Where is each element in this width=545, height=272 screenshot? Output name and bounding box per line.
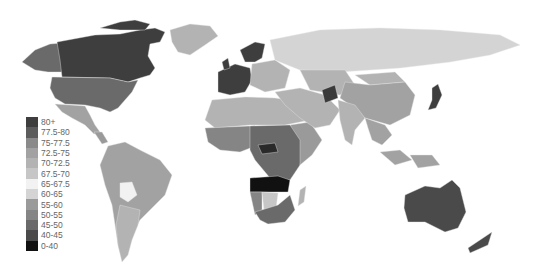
canada <box>57 28 165 82</box>
legend-label: 72.5-75 <box>41 148 70 158</box>
eastern-europe <box>250 60 290 92</box>
legend-swatch <box>26 189 38 199</box>
legend-swatch <box>26 199 38 209</box>
scandinavia <box>240 42 265 62</box>
legend-item: 67.5-70 <box>26 168 86 178</box>
legend-label: 77.5-80 <box>41 127 70 137</box>
legend-swatch <box>26 117 38 127</box>
australia <box>404 180 466 232</box>
legend-item: 65-67.5 <box>26 179 86 189</box>
legend-swatch <box>26 179 38 189</box>
legend-label: 40-45 <box>41 230 63 240</box>
legend-swatch <box>26 210 38 220</box>
madagascar <box>298 186 306 206</box>
legend-label: 45-50 <box>41 220 63 230</box>
legend-swatch <box>26 241 38 251</box>
legend-label: 55-60 <box>41 200 63 210</box>
western-europe <box>218 64 252 95</box>
legend-swatch <box>26 158 38 168</box>
legend-item: 72.5-75 <box>26 148 86 158</box>
legend-label: 80+ <box>41 117 55 127</box>
central-america <box>94 132 108 144</box>
legend-swatch <box>26 127 38 137</box>
legend-item: 70-72.5 <box>26 158 86 168</box>
legend-swatch <box>26 230 38 240</box>
legend-item: 0-40 <box>26 241 86 251</box>
angola-zambia <box>250 176 290 192</box>
alaska <box>22 43 62 72</box>
legend-label: 67.5-70 <box>41 169 70 179</box>
legend-swatch <box>26 138 38 148</box>
legend-label: 50-55 <box>41 210 63 220</box>
legend-item: 40-45 <box>26 230 86 240</box>
legend-label: 0-40 <box>41 241 58 251</box>
legend-item: 60-65 <box>26 189 86 199</box>
legend-item: 80+ <box>26 117 86 127</box>
legend-swatch <box>26 148 38 158</box>
legend-label: 70-72.5 <box>41 158 70 168</box>
legend-swatch <box>26 168 38 178</box>
new-zealand <box>468 232 492 253</box>
legend-item: 75-77.5 <box>26 138 86 148</box>
legend-item: 45-50 <box>26 220 86 230</box>
south-america <box>100 142 172 260</box>
legend-label: 60-65 <box>41 189 63 199</box>
indonesia <box>380 150 440 168</box>
legend-item: 50-55 <box>26 210 86 220</box>
legend-swatch <box>26 220 38 230</box>
legend: 80+77.5-8075-77.572.5-7570-72.567.5-7065… <box>26 117 86 251</box>
argentina <box>116 205 140 262</box>
uk <box>222 58 230 70</box>
canada-islands <box>100 20 150 30</box>
legend-item: 77.5-80 <box>26 127 86 137</box>
greenland <box>170 24 218 55</box>
japan <box>428 84 442 110</box>
legend-label: 75-77.5 <box>41 138 70 148</box>
russia <box>270 28 520 72</box>
legend-label: 65-67.5 <box>41 179 70 189</box>
legend-item: 55-60 <box>26 199 86 209</box>
